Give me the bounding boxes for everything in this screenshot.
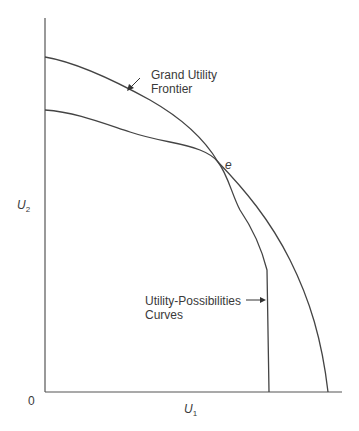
possibilities-label: Utility-Possibilities Curves — [145, 294, 241, 322]
x-axis-label: U1 — [184, 402, 197, 421]
point-e-label: e — [225, 158, 232, 172]
grand-utility-frontier-curve — [45, 57, 328, 392]
diagram-canvas — [0, 0, 359, 431]
possibilities-arrowhead-icon — [260, 297, 266, 303]
utility-possibilities-curve — [45, 110, 269, 392]
origin-label: 0 — [28, 394, 35, 408]
grand-frontier-label: Grand Utility Frontier — [151, 68, 217, 96]
y-axis-label: U2 — [17, 198, 30, 217]
